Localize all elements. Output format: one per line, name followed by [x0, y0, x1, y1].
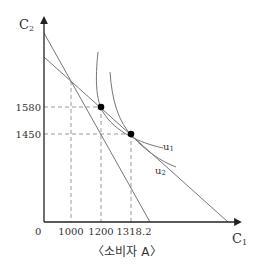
y-axis-label: C2 [19, 17, 34, 33]
y-tick-1450: 1450 [16, 129, 41, 140]
point-1318-1450 [128, 131, 135, 138]
diagram-canvas: C2 C1 0 1580 1450 1000 1200 1318.2 u1 u2… [0, 0, 259, 275]
indifference-curve-u2 [110, 72, 176, 167]
y-tick-1580: 1580 [16, 102, 41, 113]
point-1200-1580 [98, 104, 105, 111]
x-axis-label: C1 [232, 231, 247, 247]
x-tick-1318-2: 1318.2 [117, 226, 152, 237]
x-tick-1000: 1000 [58, 226, 83, 237]
diagram-caption: 〈소비자 A〉 [92, 245, 161, 259]
dashed-guides [44, 81, 131, 222]
curve-label-u2: u2 [155, 165, 166, 177]
origin-label: 0 [35, 226, 41, 237]
x-tick-1200: 1200 [88, 226, 113, 237]
curve-label-u1: u1 [163, 141, 174, 153]
